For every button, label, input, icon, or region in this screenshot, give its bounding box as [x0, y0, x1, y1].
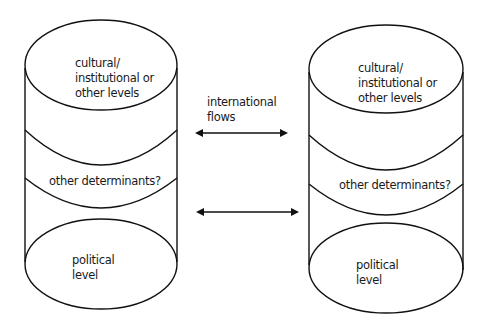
label-line: international [207, 95, 276, 110]
left-top-label: cultural/ institutional or other levels [75, 56, 154, 101]
international-flows-label: international flows [207, 95, 276, 125]
label-line: political [356, 258, 398, 273]
right-top-label: cultural/ institutional or other levels [358, 61, 437, 106]
label-line: level [356, 273, 398, 288]
label-line: level [72, 268, 114, 283]
right-bottom-label: political level [356, 258, 398, 288]
right-upper-arc [309, 135, 463, 170]
left-bottom-label: political level [72, 253, 114, 283]
label-line: flows [207, 110, 276, 125]
label-line: cultural/ [75, 56, 154, 71]
right-middle-label: other determinants? [339, 178, 451, 193]
label-line: political [72, 253, 114, 268]
left-upper-arc [25, 130, 177, 165]
label-line: institutional or [358, 76, 437, 91]
label-line: other levels [358, 91, 437, 106]
label-line: cultural/ [358, 61, 437, 76]
label-line: other levels [75, 86, 154, 101]
label-line: institutional or [75, 71, 154, 86]
left-middle-label: other determinants? [49, 174, 161, 189]
